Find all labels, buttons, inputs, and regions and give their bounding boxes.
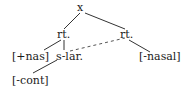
feature-tree-diagram: x rt. rt. [+nas] s-lar. [-cont] [-nasal] — [0, 0, 185, 92]
node-root-x: x — [77, 2, 83, 13]
node-right-root: rt. — [120, 29, 133, 40]
node-cont-feature: [-cont] — [12, 75, 49, 86]
edge-x-to-left-root — [64, 13, 80, 29]
edge-x-to-right-root — [85, 13, 125, 29]
node-slar: s-lar. — [56, 51, 83, 62]
node-left-root: rt. — [57, 29, 70, 40]
node-nas-feature: [+nas] — [12, 51, 49, 62]
node-nasal-feature: [-nasal] — [139, 51, 181, 62]
edge-left-root-to-nas — [44, 40, 61, 50]
